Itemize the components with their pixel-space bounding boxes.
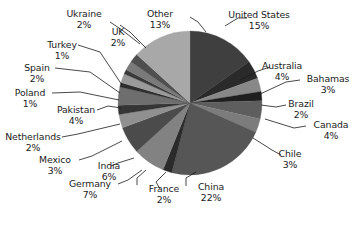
slice-label-spain: Spain 2% [18, 62, 56, 84]
slice-label-united-states: United States 15% [222, 9, 296, 31]
leader-line-mexico [79, 141, 122, 160]
slice-label-netherlands: Netherlands 2% [2, 131, 64, 153]
slice-label-other: Other 13% [138, 8, 182, 30]
leader-line-other [190, 17, 206, 32]
slice-label-pakistan: Pakistan 4% [52, 104, 100, 126]
slice-label-canada: Canada 4% [306, 119, 356, 141]
pie-chart: United States 15% Australia 4% Bahamas 3… [0, 0, 360, 225]
slice-label-turkey: Turkey 1% [42, 39, 82, 61]
slice-label-china: China 22% [191, 181, 231, 203]
slice-label-india: India 6% [92, 160, 126, 182]
slice-label-bahamas: Bahamas 3% [300, 73, 356, 95]
leader-line-spain [55, 68, 120, 93]
leader-line-pakistan [97, 106, 121, 110]
slice-label-poland: Poland 1% [8, 87, 52, 109]
slice-label-chile: Chile 3% [272, 148, 308, 170]
slice-label-france: France 2% [142, 183, 186, 205]
slice-label-ukraine: Ukraine 2% [58, 8, 110, 30]
slice-label-mexico: Mexico 3% [32, 154, 78, 176]
pie-slice-group [118, 31, 262, 175]
leader-line-poland [52, 92, 119, 100]
slice-label-brazil: Brazil 2% [281, 98, 321, 120]
